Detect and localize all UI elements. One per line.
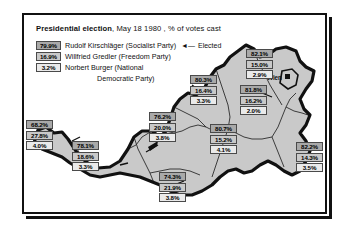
- legend-label-socialist: Rudolf Kirschläger (Socialist Party): [65, 41, 176, 51]
- value-socialist: 82.2%: [296, 142, 323, 151]
- legend-swatch-socialist: 79.9%: [36, 41, 61, 50]
- values-upper-austria: 80.3% 16.4% 3.3%: [190, 75, 217, 105]
- legend-swatch-national: 3.2%: [36, 63, 61, 72]
- vienna-enclave: [280, 69, 298, 89]
- legend-swatch-freedom: 16.9%: [36, 52, 61, 61]
- legend-row-socialist: 79.9% Rudolf Kirschläger (Socialist Part…: [36, 41, 221, 52]
- value-national: 3.5%: [296, 163, 323, 172]
- figure-frame: Presidential election, May 18 1980 , % o…: [22, 13, 327, 214]
- value-national: 4.0%: [26, 141, 53, 150]
- value-national: 3.8%: [159, 193, 186, 202]
- value-socialist: 74.3%: [159, 172, 186, 181]
- elected-annotation: ◄— Elected: [181, 41, 221, 51]
- value-socialist: 81.8%: [240, 85, 267, 94]
- title-rest: , May 18 1980 , % of votes cast: [112, 24, 221, 33]
- values-vorarlberg: 68.2% 27.8% 4.0%: [26, 120, 53, 150]
- values-burgenland: 82.2% 14.3% 3.5%: [296, 142, 323, 172]
- values-lower-austria: 82.1% 15.0% 2.9%: [246, 49, 273, 79]
- value-freedom: 27.8%: [26, 131, 53, 140]
- legend-label-national: Norbert Burger (National: [65, 63, 143, 73]
- page-title: Presidential election, May 18 1980 , % o…: [36, 24, 221, 33]
- value-socialist: 80.3%: [190, 75, 217, 84]
- legend-row-national: 3.2% Norbert Burger (National: [36, 63, 221, 74]
- value-freedom: 20.0%: [149, 123, 176, 132]
- value-socialist: 78.1%: [72, 141, 99, 150]
- title-bold: Presidential election: [36, 24, 112, 33]
- wien-marker-icon: [285, 74, 290, 79]
- value-socialist: 82.1%: [246, 49, 273, 58]
- values-carinthia: 74.3% 21.9% 3.8%: [159, 172, 186, 202]
- legend-row-freedom: 16.9% Willfried Gredler (Freedom Party): [36, 52, 221, 63]
- value-freedom: 15.0%: [246, 60, 273, 69]
- value-freedom: 16.4%: [190, 86, 217, 95]
- figure-canvas: Presidential election, May 18 1980 , % o…: [0, 0, 347, 231]
- value-freedom: 15.2%: [210, 135, 237, 144]
- value-national: 4.1%: [210, 145, 237, 154]
- value-freedom: 21.9%: [159, 183, 186, 192]
- value-freedom: 16.2%: [240, 96, 267, 105]
- value-socialist: 68.2%: [26, 120, 53, 129]
- value-freedom: 18.6%: [72, 152, 99, 161]
- values-vienna: 81.8% 16.2% 2.0%: [240, 85, 267, 115]
- values-tyrol: 78.1% 18.6% 3.3%: [72, 141, 99, 171]
- values-salzburg: 76.2% 20.0% 3.8%: [149, 112, 176, 142]
- arrow-left-icon: ◄—: [181, 41, 195, 51]
- value-national: 2.9%: [246, 70, 273, 79]
- value-socialist: 76.2%: [149, 112, 176, 121]
- value-national: 2.0%: [240, 106, 267, 115]
- elected-label: Elected: [198, 41, 221, 51]
- values-styria: 80.7% 15.2% 4.1%: [210, 124, 237, 154]
- value-national: 3.8%: [149, 133, 176, 142]
- value-national: 3.3%: [72, 162, 99, 171]
- legend-label-freedom: Willfried Gredler (Freedom Party): [65, 52, 171, 62]
- value-socialist: 80.7%: [210, 124, 237, 133]
- value-freedom: 14.3%: [296, 153, 323, 162]
- value-national: 3.3%: [190, 96, 217, 105]
